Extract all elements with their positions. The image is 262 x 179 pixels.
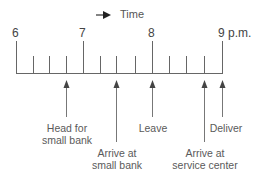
- event-label-head-for-small-bank: Head for small bank: [42, 122, 92, 146]
- event-arrow-icon: [150, 80, 156, 117]
- hour-label-7: 7: [79, 27, 86, 40]
- event-label-deliver: Deliver: [210, 122, 243, 134]
- event-arrow-icon: [202, 80, 208, 142]
- major-ticks: [17, 41, 223, 74]
- event-arrow-icon: [114, 80, 120, 142]
- event-arrow-icon: [220, 80, 226, 117]
- event-label-arrive-service-center: Arrive at service center: [172, 147, 237, 171]
- event-label-leave: Leave: [139, 122, 168, 134]
- minor-ticks: [34, 56, 205, 74]
- event-arrow-icon: [64, 80, 70, 117]
- hour-label-6: 6: [12, 27, 19, 40]
- time-direction-arrow-icon: [96, 11, 111, 19]
- time-direction-label: Time: [120, 8, 144, 20]
- hour-label-8: 8: [148, 27, 155, 40]
- hour-label-9pm: 9 p.m.: [218, 27, 251, 40]
- event-label-arrive-small-bank: Arrive at small bank: [92, 147, 142, 171]
